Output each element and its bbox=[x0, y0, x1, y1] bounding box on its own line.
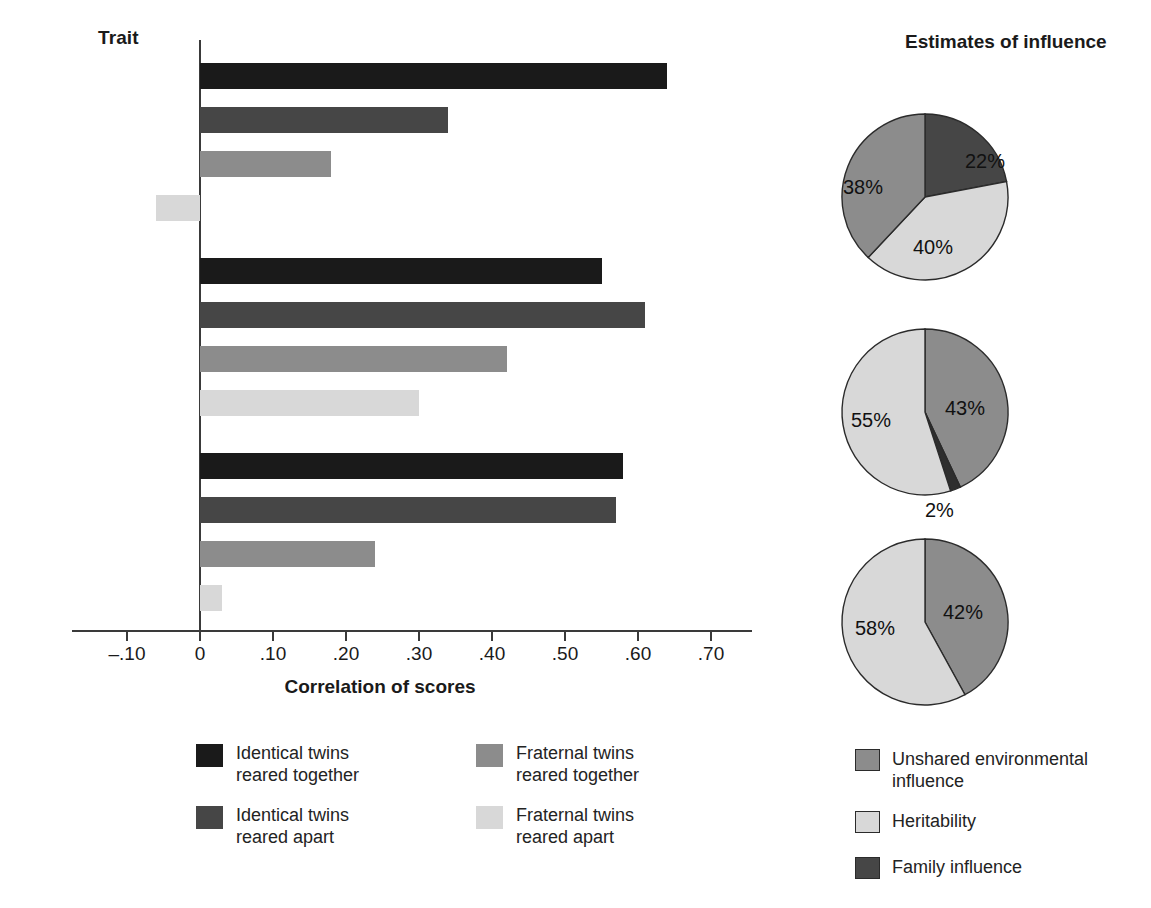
legend-label: Unshared environmental influence bbox=[892, 748, 1088, 792]
bar bbox=[200, 453, 623, 479]
legend-label: Identical twins reared apart bbox=[236, 804, 349, 848]
bar bbox=[200, 541, 375, 567]
bar bbox=[200, 107, 448, 133]
x-axis-line bbox=[72, 630, 752, 632]
pie-slice-percent: 40% bbox=[913, 236, 953, 259]
pie-slice: Heritability: 58% bbox=[842, 539, 965, 705]
trait-label: Negativeemotionality bbox=[0, 314, 72, 360]
trait-label-line: Constraint bbox=[0, 521, 72, 544]
bar bbox=[200, 585, 222, 611]
legend-swatch bbox=[196, 806, 223, 829]
figure-root: Trait –.100.10.20.30.40.50.60.70 Positiv… bbox=[0, 0, 1151, 908]
x-tick bbox=[418, 632, 420, 641]
pie-slice-percent: 58% bbox=[855, 617, 895, 640]
bar bbox=[200, 258, 602, 284]
pie-slice-percent: 42% bbox=[943, 601, 983, 624]
legend-item[interactable]: Heritability bbox=[855, 810, 976, 833]
x-tick-label: .40 bbox=[457, 643, 527, 665]
legend-label: Fraternal twins reared together bbox=[516, 742, 639, 786]
trait-label-line: Positive bbox=[0, 119, 72, 142]
legend-label: Family influence bbox=[892, 856, 1022, 878]
trait-label: Positiveemotionality bbox=[0, 119, 72, 165]
legend-swatch bbox=[476, 744, 503, 767]
pie-slice: Unshared environmental influence: 43% bbox=[925, 329, 1008, 487]
pie-slice: Family influence: 2% bbox=[925, 412, 960, 491]
x-tick bbox=[199, 632, 201, 641]
legend-label: Fraternal twins reared apart bbox=[516, 804, 634, 848]
trait-label: Constraint bbox=[0, 521, 72, 544]
bar-chart-panel: Trait –.100.10.20.30.40.50.60.70 Positiv… bbox=[0, 0, 800, 908]
bar bbox=[200, 151, 331, 177]
pie-slice: Heritability: 55% bbox=[842, 329, 951, 495]
x-tick bbox=[126, 632, 128, 641]
pie-panel-title: Estimates of influence bbox=[905, 30, 1145, 53]
pie-slice-percent: 2% bbox=[925, 499, 954, 522]
trait-label-line: Negative bbox=[0, 314, 72, 337]
x-tick-label: .30 bbox=[384, 643, 454, 665]
bar bbox=[200, 302, 645, 328]
pie-slice: Unshared environmental influence: 42% bbox=[925, 539, 1008, 695]
legend-swatch bbox=[855, 811, 880, 833]
x-tick-label: .60 bbox=[603, 643, 673, 665]
pie-slice-percent: 22% bbox=[965, 150, 1005, 173]
legend-item[interactable]: Unshared environmental influence bbox=[855, 748, 1088, 792]
pie-slice: Family influence: 22% bbox=[925, 114, 1007, 197]
legend-swatch bbox=[476, 806, 503, 829]
x-tick-label: .50 bbox=[530, 643, 600, 665]
legend-swatch bbox=[855, 749, 880, 771]
bar bbox=[200, 346, 507, 372]
x-tick bbox=[710, 632, 712, 641]
x-tick bbox=[637, 632, 639, 641]
pie-chart-panel: Estimates of influence Family influence:… bbox=[800, 0, 1151, 908]
pie-slice-percent: 38% bbox=[843, 176, 883, 199]
legend-item[interactable]: Fraternal twins reared apart bbox=[476, 804, 634, 848]
legend-item[interactable]: Fraternal twins reared together bbox=[476, 742, 639, 786]
trait-label-line: emotionality bbox=[0, 337, 72, 360]
x-tick-label: 0 bbox=[165, 643, 235, 665]
legend-label: Heritability bbox=[892, 810, 976, 832]
legend-swatch bbox=[196, 744, 223, 767]
x-tick-label: .70 bbox=[676, 643, 746, 665]
pie-slice-percent: 55% bbox=[851, 409, 891, 432]
bar bbox=[200, 390, 419, 416]
x-tick-label: .10 bbox=[238, 643, 308, 665]
legend-item[interactable]: Identical twins reared apart bbox=[196, 804, 349, 848]
pie-slice: Heritability: 40% bbox=[868, 181, 1008, 280]
x-tick-label: .20 bbox=[311, 643, 381, 665]
legend-item[interactable]: Identical twins reared together bbox=[196, 742, 359, 786]
x-tick-label: –.10 bbox=[92, 643, 162, 665]
trait-column-header: Trait bbox=[98, 27, 139, 49]
bar bbox=[200, 497, 616, 523]
x-tick bbox=[491, 632, 493, 641]
legend-item[interactable]: Family influence bbox=[855, 856, 1022, 879]
legend-label: Identical twins reared together bbox=[236, 742, 359, 786]
trait-label-line: emotionality bbox=[0, 142, 72, 165]
x-tick bbox=[345, 632, 347, 641]
legend-swatch bbox=[855, 857, 880, 879]
bar bbox=[200, 63, 667, 89]
pie-slice: Unshared environmental influence: 38% bbox=[842, 114, 925, 258]
x-axis-title: Correlation of scores bbox=[200, 676, 560, 698]
bar bbox=[156, 195, 200, 221]
pie-slice-percent: 43% bbox=[945, 397, 985, 420]
x-tick bbox=[272, 632, 274, 641]
cutoff-caption bbox=[8, 901, 338, 908]
x-tick bbox=[564, 632, 566, 641]
